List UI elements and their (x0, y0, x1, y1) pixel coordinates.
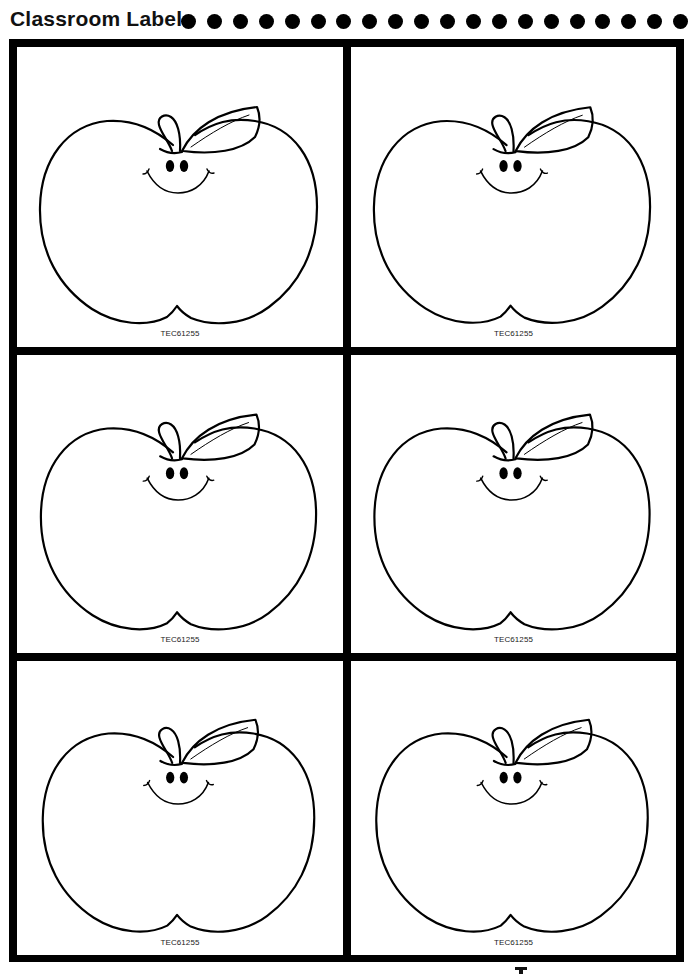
dot-icon (311, 14, 326, 29)
apple-icon (17, 47, 343, 347)
product-code: TEC61255 (351, 329, 676, 338)
dot-icon (388, 14, 403, 29)
dot-icon (466, 14, 481, 29)
dot-icon (518, 14, 533, 29)
page-header: Classroom Labels (10, 4, 691, 34)
label-card-3: TEC61255 (17, 355, 343, 653)
product-code: TEC61255 (17, 329, 343, 338)
apple-icon (17, 661, 343, 955)
dot-icon (673, 14, 688, 29)
dot-icon (414, 14, 429, 29)
product-code: TEC61255 (17, 938, 343, 947)
dot-icon (570, 14, 585, 29)
label-card-4: TEC61255 (351, 355, 676, 653)
dot-icon (621, 14, 636, 29)
label-sheet-frame: TEC61255 TEC61255 TEC61255 TEC61255 TEC6… (9, 39, 684, 962)
dot-icon (492, 14, 507, 29)
apple-icon (351, 355, 676, 653)
dot-icon (181, 14, 196, 29)
product-code: TEC61255 (351, 938, 676, 947)
dot-icon (595, 14, 610, 29)
label-card-2: TEC61255 (351, 47, 676, 347)
apple-icon (17, 355, 343, 653)
dot-icon (259, 14, 274, 29)
dot-icon (336, 14, 351, 29)
decorative-dot-row (181, 14, 691, 30)
label-card-5: TEC61255 (17, 661, 343, 955)
apple-icon (351, 47, 676, 347)
product-code: TEC61255 (351, 635, 676, 644)
dot-icon (207, 14, 222, 29)
label-card-1: TEC61255 (17, 47, 343, 347)
dot-icon (647, 14, 662, 29)
dot-icon (233, 14, 248, 29)
label-card-6: TEC61255 (351, 661, 676, 955)
dot-icon (362, 14, 377, 29)
dot-icon (285, 14, 300, 29)
product-code: TEC61255 (17, 635, 343, 644)
page-title: Classroom Labels (10, 7, 194, 31)
dot-icon (440, 14, 455, 29)
dot-icon (544, 14, 559, 29)
cut-off-glyph (515, 967, 527, 970)
apple-icon (351, 661, 676, 955)
